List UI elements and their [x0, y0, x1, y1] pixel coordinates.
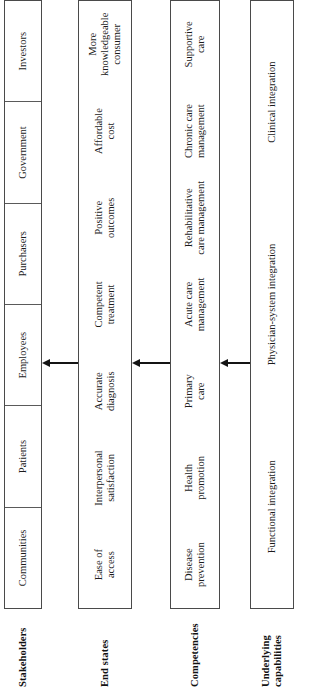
cell-purchasers: Purchasers — [5, 204, 41, 305]
tier-box-stakeholders: Communities Patients Employees Purchaser… — [4, 0, 42, 609]
cell-disease-prevention: Diseaseprevention — [171, 521, 219, 608]
arrow-up-icon-competencies-to-end-states — [132, 362, 170, 364]
cell-accurate-diagnosis: Accuratediagnosis — [79, 348, 131, 435]
cell-supportive-care: Supportivecare — [171, 1, 219, 88]
cell-patients: Patients — [5, 406, 41, 507]
cell-rehabilitative-care-management: Rehabilitativecare management — [171, 174, 219, 261]
cell-interpersonal-satisfaction: Interpersonalsatisfaction — [79, 435, 131, 522]
tier-stakeholders: Stakeholders Communities Patients Employ… — [4, 0, 42, 687]
cell-competent-treatment: Competenttreatment — [79, 261, 131, 348]
arrow-shaft — [48, 362, 78, 364]
tier-label-competencies: Competencies — [170, 609, 220, 687]
tier-label-end-states: End states — [78, 609, 132, 687]
tier-end-states: End states Ease ofaccess Interpersonalsa… — [78, 0, 132, 687]
cell-physician-system-integration: Physician-system integration — [251, 203, 293, 405]
tier-underlying-capabilities: Underlyingcapabilities Functional integr… — [250, 0, 294, 687]
rotated-figure-frame: Stakeholders Communities Patients Employ… — [0, 0, 310, 687]
arrow-up-icon-end-states-to-stakeholders — [42, 362, 78, 364]
cell-more-knowledgeable-consumer: Moreknowledgeableconsumer — [79, 1, 131, 88]
cell-acute-care-management: Acute caremanagement — [171, 261, 219, 348]
tier-box-competencies: Diseaseprevention Healthpromotion Primar… — [170, 0, 220, 609]
tier-box-underlying-capabilities: Functional integration Physician-system … — [250, 0, 294, 609]
cell-chronic-care-management: Chronic caremanagement — [171, 88, 219, 175]
tier-label-stakeholders: Stakeholders — [4, 609, 42, 687]
cell-ease-of-access: Ease ofaccess — [79, 521, 131, 608]
healthcare-value-chain-diagram: Stakeholders Communities Patients Employ… — [0, 0, 310, 687]
cell-clinical-integration: Clinical integration — [251, 1, 293, 203]
cell-primary-care: Primarycare — [171, 348, 219, 435]
tier-competencies: Competencies Diseaseprevention Healthpro… — [170, 0, 220, 687]
cell-communities: Communities — [5, 508, 41, 608]
cell-employees: Employees — [5, 305, 41, 406]
arrow-up-icon-capabilities-to-competencies — [220, 362, 250, 364]
arrow-shaft — [226, 362, 250, 364]
arrow-shaft — [138, 362, 170, 364]
cell-affordable-cost: Affordablecost — [79, 88, 131, 175]
tier-label-underlying-capabilities: Underlyingcapabilities — [250, 609, 294, 687]
cell-positive-outcomes: Positiveoutcomes — [79, 174, 131, 261]
cell-health-promotion: Healthpromotion — [171, 435, 219, 522]
tier-box-end-states: Ease ofaccess Interpersonalsatisfaction … — [78, 0, 132, 609]
cell-functional-integration: Functional integration — [251, 406, 293, 608]
cell-investors: Investors — [5, 1, 41, 102]
cell-government: Government — [5, 102, 41, 203]
